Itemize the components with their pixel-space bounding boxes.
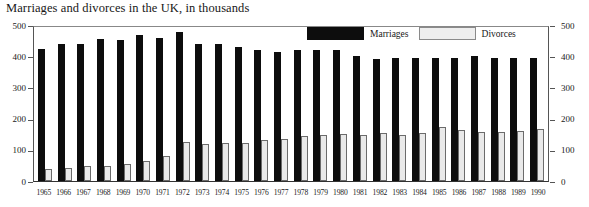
y-tick-label: 300 [13,84,27,93]
bar-group [409,27,429,181]
y-tick-mark [550,182,555,183]
y-tick-mark [28,151,33,152]
bar-group [389,27,409,181]
bar-group [212,27,232,181]
x-tick-label: 1965 [34,188,54,197]
x-tick-label: 1966 [54,188,74,197]
y-tick-mark [28,57,33,58]
y-axis-right: 5004003002001000 [556,26,588,182]
bar-group [370,27,390,181]
x-tick-label: 1990 [528,188,548,197]
y-tick-label: 300 [561,84,575,93]
bar-divorces [340,134,347,181]
bar-divorces [84,166,91,181]
y-tick-label: 200 [561,115,575,124]
bar-divorces [183,142,190,181]
legend-label-marriages: Marriages [370,29,409,39]
bar-marriages [77,44,84,181]
y-tick-label: 0 [561,178,566,187]
y-tick-mark [550,26,555,27]
bar-divorces [261,140,268,181]
legend-item-divorces[interactable]: Divorces [419,27,516,40]
bar-divorces [439,127,446,181]
bar-group [173,27,193,181]
x-tick-label: 1967 [74,188,94,197]
bar-divorces [143,161,150,181]
chart-title: Marriages and divorces in the UK, in tho… [6,1,249,15]
bar-group [252,27,272,181]
bar-marriages [373,59,380,181]
x-tick-label: 1986 [449,188,469,197]
bar-divorces [419,133,426,181]
x-axis-labels: 1965196619671968196919701971197219731974… [33,188,549,197]
y-tick-label: 500 [561,22,575,31]
legend-item-marriages[interactable]: Marriages [307,27,409,40]
y-tick-label: 200 [13,115,27,124]
x-tick-label: 1979 [311,188,331,197]
bar-divorces [242,143,249,182]
bar-divorces [380,133,387,181]
bar-divorces [399,135,406,181]
bar-marriages [195,44,202,181]
bar-divorces [320,135,327,181]
bar-marriages [176,32,183,181]
bar-marriages [38,49,45,181]
bar-group [114,27,134,181]
bar-marriages [58,44,65,181]
bar-group [153,27,173,181]
plot-area [33,26,549,182]
bar-group [55,27,75,181]
x-tick-label: 1978 [291,188,311,197]
x-tick-label: 1976 [251,188,271,197]
x-tick-label: 1971 [153,188,173,197]
bar-marriages [353,56,360,181]
y-tick-mark [28,120,33,121]
bar-divorces [202,144,209,181]
bar-marriages [97,39,104,181]
bar-marriages [392,58,399,181]
x-tick-label: 1985 [429,188,449,197]
legend-swatch-divorces [419,27,476,40]
bar-marriages [156,38,163,181]
bar-divorces [65,168,72,181]
y-tick-label: 400 [561,53,575,62]
x-tick-label: 1989 [508,188,528,197]
x-tick-label: 1977 [271,188,291,197]
bar-group [527,27,547,181]
bar-group [448,27,468,181]
bar-marriages [136,35,143,181]
y-tick-mark [28,26,33,27]
y-tick-label: 500 [13,22,27,31]
x-tick-label: 1984 [410,188,430,197]
bar-divorces [478,132,485,181]
bar-marriages [117,40,124,181]
x-tick-label: 1988 [489,188,509,197]
bar-marriages [235,47,242,181]
bar-divorces [281,139,288,181]
bar-group [133,27,153,181]
bar-divorces [458,130,465,181]
bar-marriages [510,58,517,181]
x-tick-label: 1968 [93,188,113,197]
chart-figure: Marriages and divorces in the UK, in tho… [0,0,589,207]
x-tick-label: 1972 [172,188,192,197]
y-tick-label: 400 [13,53,27,62]
y-axis-left: 5004003002001000 [0,26,30,182]
bar-marriages [432,58,439,181]
bar-marriages [215,44,222,181]
bar-group [311,27,331,181]
bar-divorces [104,166,111,181]
bar-marriages [294,50,301,181]
y-tick-mark [550,120,555,121]
bar-group [35,27,55,181]
bar-group [232,27,252,181]
x-tick-label: 1987 [469,188,489,197]
bar-marriages [333,50,340,181]
y-tick-mark [550,88,555,89]
x-tick-label: 1970 [133,188,153,197]
bar-marriages [491,58,498,181]
x-tick-label: 1980 [330,188,350,197]
x-tick-label: 1982 [370,188,390,197]
bar-marriages [254,50,261,181]
x-tick-label: 1975 [232,188,252,197]
